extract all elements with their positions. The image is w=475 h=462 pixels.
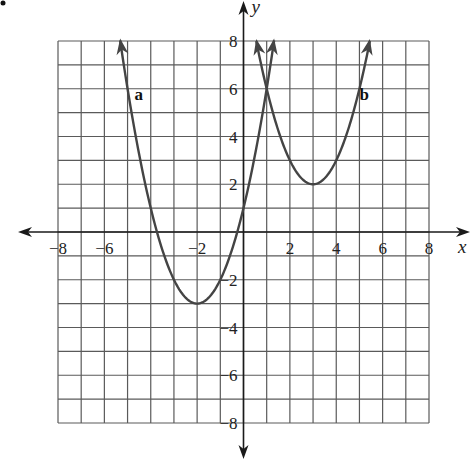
y-tick-label: −4 [219,319,238,338]
y-tick-label: 4 [229,128,238,147]
corner-dot [1,1,6,6]
curve-label-b: b [359,85,368,104]
x-tick-label: −8 [49,239,67,258]
y-tick-label: 8 [229,32,238,51]
x-tick-label: 6 [378,239,387,258]
y-axis-label: y [250,0,261,17]
y-tick-label: −6 [219,366,237,385]
y-tick-label: −8 [219,414,237,433]
curve-label-a: a [135,85,144,104]
x-tick-label: 4 [332,239,341,258]
axes [18,1,470,459]
coordinate-plane: −8−6−224688642−2−4−6−8 ab x y [0,0,475,462]
y-tick-label: 6 [229,80,238,99]
curve-labels: ab [135,85,369,104]
x-tick-label: −6 [95,239,113,258]
x-tick-label: 2 [286,239,295,258]
curves [117,38,373,303]
x-tick-label: 8 [425,239,434,258]
y-tick-label: 2 [229,175,238,194]
x-axis-label: x [457,236,467,257]
x-tick-label: −2 [188,239,206,258]
